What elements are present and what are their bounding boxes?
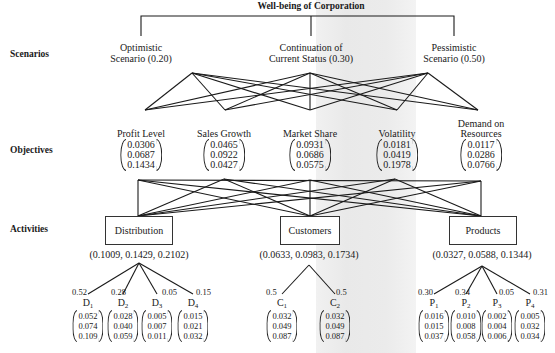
right-paren [99, 310, 104, 342]
activity-products-box: Products [449, 216, 517, 245]
right-paren [541, 310, 546, 342]
sub-activity-label: P1 [429, 298, 438, 310]
sub-activity-weight: 0.05 [499, 288, 514, 297]
sub-activity-index: 2 [337, 302, 341, 310]
sub-activity-weight: 0.5 [336, 288, 347, 297]
sub-activity-index: 3 [159, 302, 163, 310]
vector-value: 0.087 [272, 331, 291, 341]
sub-activity-letter: C [277, 297, 284, 308]
right-paren [204, 310, 209, 342]
sub-activity-label: D1 [83, 298, 94, 310]
objective-weight-vector: 0.09310.06860.0575 [289, 139, 331, 171]
sub-activity-vector: 0.0320.0490.087 [319, 310, 350, 342]
right-paren [239, 139, 245, 171]
objective-label: Sales Growth [197, 129, 251, 139]
objective-label: Demand onResources [458, 119, 504, 139]
activity-distribution-box: Distribution [105, 216, 173, 245]
sub-activity-weight: 0.15 [196, 288, 211, 297]
right-paren [156, 139, 162, 171]
activity-label: Products [466, 225, 501, 236]
scenario-line2: Scenario (0.20) [110, 53, 172, 64]
sub-activity-index: 4 [531, 302, 535, 310]
sub-activity-weight: 0.05 [162, 288, 177, 297]
objective-label-line2: Volatility [378, 129, 415, 139]
sub-activity-index: 1 [284, 302, 288, 310]
objective-label: Market Share [283, 129, 337, 139]
sub-activity-label: D2 [118, 298, 129, 310]
vector-value: 0.0427 [210, 160, 238, 170]
right-paren [293, 310, 298, 342]
row-label-activities: Activities [10, 225, 48, 235]
objective-label-line2: Profit Level [117, 129, 165, 139]
sub-activity-label: P2 [461, 298, 470, 310]
sub-activity-index: 1 [90, 302, 94, 310]
vector-value: 0.032 [325, 311, 344, 321]
scenario-line2: Current Status (0.30) [269, 53, 353, 64]
sub-activity-weight: 0.5 [266, 288, 277, 297]
vector-value: 0.109 [78, 331, 97, 341]
row-label-objectives: Objectives [10, 146, 53, 156]
sub-activity-index: 4 [195, 302, 199, 310]
sub-activity-index: 2 [125, 302, 129, 310]
sub-activity-weight: 0.31 [533, 288, 548, 297]
right-paren [445, 310, 450, 342]
vector-value: 0.002 [487, 311, 506, 321]
vector-value: 0.021 [183, 321, 202, 331]
vector-value: 0.005 [147, 311, 166, 321]
right-paren [496, 139, 502, 171]
objective-weight-vector: 0.01810.04190.1978 [376, 139, 418, 171]
sub-activity-label: D3 [152, 298, 163, 310]
activity-customers-vector: (0.0633, 0.0983, 0.1734) [259, 250, 358, 260]
scenario-line1: Optimistic [110, 42, 172, 53]
vector-value: 0.015 [424, 321, 443, 331]
vector-value: 0.059 [113, 331, 132, 341]
scenario-line1: Pessimistic [423, 42, 485, 53]
sub-activity-weight: 0.34 [455, 288, 470, 297]
right-paren [325, 139, 331, 171]
scenario-line2: Scenario (0.50) [423, 53, 485, 64]
vector-value: 0.1434 [127, 160, 155, 170]
right-paren [412, 139, 418, 171]
objective-label: Profit Level [117, 129, 165, 139]
vector-value: 0.015 [183, 311, 202, 321]
sub-activity-label: D4 [188, 298, 199, 310]
vector-value: 0.037 [424, 331, 443, 341]
scenario-pessimistic: Pessimistic Scenario (0.50) [423, 42, 485, 64]
sub-activity-vector: 0.0320.0490.087 [266, 310, 297, 342]
sub-activity-label: P4 [525, 298, 534, 310]
sub-activity-label: C2 [330, 298, 340, 310]
scenario-current-status: Continuation of Current Status (0.30) [269, 42, 353, 64]
sub-activity-vector: 0.0280.0400.059 [107, 310, 138, 342]
objective-label: Volatility [378, 129, 415, 139]
right-paren [168, 310, 173, 342]
vector-value: 0.032 [183, 331, 202, 341]
sub-activity-weight: 0.52 [72, 288, 87, 297]
vector-value: 0.052 [78, 311, 97, 321]
vector-value: 0.1978 [383, 160, 411, 170]
vector-value: 0.049 [325, 321, 344, 331]
vector-value: 0.032 [272, 311, 291, 321]
sub-activity-vector: 0.0020.0040.006 [481, 310, 512, 342]
vector-value: 0.040 [113, 321, 132, 331]
scenario-line1: Continuation of [269, 42, 353, 53]
sub-activity-letter: C [330, 297, 337, 308]
sub-activity-vector: 0.0150.0210.032 [177, 310, 208, 342]
sub-activity-vector: 0.0050.0320.034 [514, 310, 545, 342]
sub-activity-weight: 0.28 [111, 288, 126, 297]
sub-activity-vector: 0.0160.0150.037 [418, 310, 449, 342]
vector-value: 0.028 [113, 311, 132, 321]
objective-label-line2: Resources [458, 129, 504, 139]
objective-label-line2: Market Share [283, 129, 337, 139]
vector-value: 0.006 [487, 331, 506, 341]
objective-label-line2: Sales Growth [197, 129, 251, 139]
activity-customers-box: Customers [280, 216, 340, 245]
vector-value: 0.087 [325, 331, 344, 341]
activity-products-vector: (0.0327, 0.0588, 0.1344) [432, 250, 531, 260]
right-paren [134, 310, 139, 342]
objective-weight-vector: 0.04650.09220.0427 [203, 139, 245, 171]
vector-value: 0.049 [272, 321, 291, 331]
diagram-title: Well-being of Corporation [257, 2, 364, 12]
sub-activity-label: C1 [277, 298, 287, 310]
activity-label: Customers [289, 225, 332, 236]
sub-activity-index: 3 [498, 302, 502, 310]
